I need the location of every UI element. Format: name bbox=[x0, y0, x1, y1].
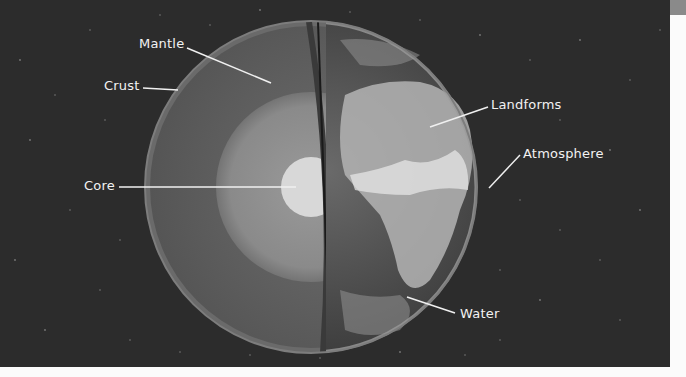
label-mantle: Mantle bbox=[139, 36, 184, 51]
label-crust: Crust bbox=[104, 78, 140, 93]
diagram-panel: Mantle Crust Core Landforms Atmosphere W… bbox=[0, 0, 670, 367]
label-water: Water bbox=[460, 306, 499, 321]
edge-strip bbox=[670, 0, 686, 15]
label-atmosphere: Atmosphere bbox=[523, 146, 604, 161]
label-landforms: Landforms bbox=[491, 97, 562, 112]
label-core: Core bbox=[84, 178, 115, 193]
